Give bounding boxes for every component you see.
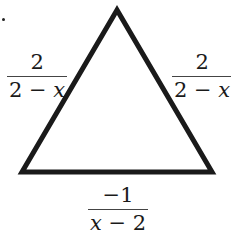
right-side-label: 2 2 − x (172, 52, 231, 101)
bottom-denominator: x − 2 (88, 210, 148, 234)
bottom-numerator: −1 (101, 185, 136, 209)
diagram-canvas: 2 2 − x 2 2 − x −1 x − 2 (0, 0, 231, 234)
right-numerator: 2 (193, 52, 210, 76)
bottom-side-label: −1 x − 2 (88, 185, 148, 234)
left-denominator: 2 − x (7, 77, 67, 101)
right-denominator: 2 − x (172, 77, 231, 101)
left-numerator: 2 (28, 52, 45, 76)
left-side-label: 2 2 − x (7, 52, 67, 101)
